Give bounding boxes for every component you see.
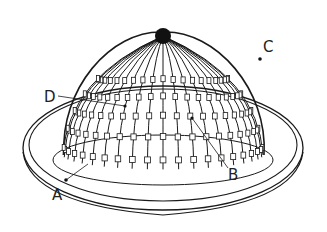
rib-segment-block (67, 149, 71, 155)
rib-segment-block (62, 144, 65, 150)
rib-segment-block (161, 93, 166, 99)
rib-segment-block (82, 111, 86, 117)
rib-segment-block (103, 77, 107, 83)
rib-segment-block (259, 147, 262, 153)
rib-segment-block (231, 154, 236, 160)
rib-segment-block (216, 94, 220, 100)
rib-segment-block (147, 113, 152, 119)
rib-segment-block (93, 132, 98, 138)
rib-segment-block (151, 76, 155, 82)
label-c: C (263, 38, 273, 56)
rib-segment-block (171, 76, 175, 82)
rib-segment-block (109, 78, 113, 84)
rib-segment-block (160, 157, 166, 163)
rib-segment-block (190, 134, 195, 140)
rib-segment-block (255, 127, 258, 133)
rib-segment-block (224, 94, 228, 100)
rib-segment-block (185, 94, 190, 100)
rib-segment-block (96, 75, 99, 81)
leader-c-dot (258, 57, 262, 61)
rib-segment-block (191, 157, 197, 163)
rib-segment-block (223, 77, 226, 83)
rib-segment-block (204, 134, 209, 140)
rib-segment-block (232, 112, 236, 118)
rib-segment-block (131, 134, 136, 140)
rib-segment-block (238, 131, 242, 137)
leader-a-dot (64, 178, 68, 182)
rib-segment-block (105, 133, 110, 139)
dome-rib (163, 36, 179, 169)
rib-segment-block (214, 78, 218, 84)
rib-segment-block (161, 76, 165, 82)
rib-segment-block (219, 77, 223, 83)
rib-segment-block (246, 130, 250, 136)
rib-segment-block (90, 154, 95, 160)
rib-segment-block (213, 113, 218, 119)
rib-segment-block (174, 113, 179, 119)
rib-segment-block (123, 78, 127, 84)
rib-segment-block (83, 91, 86, 97)
rib-segment-block (84, 131, 88, 137)
rib-segment-block (90, 112, 94, 118)
rib-segment-block (199, 78, 203, 84)
dome-rib (147, 36, 163, 169)
rib-segment-block (137, 94, 142, 100)
rib-segment-block (73, 108, 76, 114)
dome-rib (118, 36, 163, 168)
label-b: B (228, 166, 238, 184)
rib-segment-block (201, 113, 206, 119)
rib-segment-block (106, 94, 110, 100)
rib-segment-block (181, 77, 185, 83)
rib-segment-block (207, 95, 211, 101)
dome-diagram: D B C A (0, 0, 327, 232)
rib-segment-block (207, 78, 211, 84)
rib-segment-block (98, 113, 103, 119)
rib-segment-block (148, 94, 153, 100)
leader-d-dot (123, 104, 126, 107)
rib-segment-block (249, 150, 253, 156)
rib-segment-block (109, 113, 114, 119)
rib-segment-block (228, 132, 233, 138)
rib-segment-block (173, 94, 178, 100)
rib-segment-block (80, 152, 85, 158)
rib-segment-block (205, 156, 211, 162)
label-a: A (52, 186, 63, 204)
rib-segment-block (161, 112, 166, 118)
rib-segment-block (145, 157, 151, 163)
rib-segment-block (241, 152, 246, 158)
rib-segment-block (145, 134, 150, 140)
rib-segment-block (115, 78, 119, 84)
rib-segment-block (98, 94, 102, 100)
rib-segment-block (160, 134, 166, 140)
rib-segment-block (130, 157, 136, 163)
rib-segment-block (72, 150, 76, 156)
leader-b-dot (190, 116, 193, 119)
rib-segment-block (175, 134, 180, 140)
rib-segment-block (256, 149, 260, 155)
rib-segment-block (76, 130, 80, 136)
rib-segment-block (131, 77, 135, 83)
rib-segment-block (102, 155, 107, 161)
label-d: D (44, 88, 56, 106)
dome-apex (155, 28, 171, 44)
rib-segment-block (176, 157, 182, 163)
rib-segment-block (240, 111, 244, 117)
dome-ribs (62, 36, 264, 169)
rib-segment-block (223, 113, 228, 119)
rib-segment-block (117, 134, 122, 140)
rib-segment-block (236, 93, 240, 99)
rib-segment-block (133, 113, 138, 119)
rib-segment-block (245, 110, 249, 116)
rib-segment-block (115, 156, 121, 162)
rib-segment-block (191, 77, 195, 83)
rib-segment-block (231, 94, 235, 100)
rib-segment-block (252, 129, 256, 135)
rib-segment-block (115, 95, 119, 101)
rib-segment-block (141, 77, 145, 83)
rib-segment-block (66, 125, 69, 131)
rib-segment-block (196, 94, 201, 100)
rib-segment-block (217, 133, 222, 139)
rib-segment-block (125, 94, 130, 100)
dome-rib (163, 36, 208, 168)
rib-segment-block (71, 129, 75, 135)
